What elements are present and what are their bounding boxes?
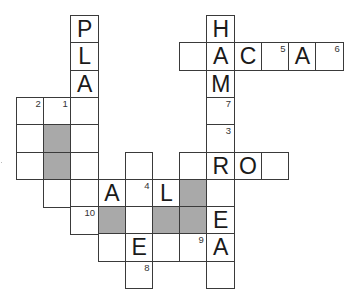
crossword-cell[interactable]: A	[206, 42, 235, 71]
shaded-cell	[43, 124, 72, 153]
cell-letter: L	[71, 44, 98, 69]
crossword-cell[interactable]: 5	[261, 42, 290, 71]
crossword-cell[interactable]: R	[206, 152, 235, 181]
shaded-cell	[179, 179, 208, 208]
crossword-grid: PHLAC5A6AM2173ROA4L10EE9A8	[0, 0, 347, 303]
cell-letter: A	[99, 181, 126, 206]
crossword-cell[interactable]: 7	[206, 97, 235, 126]
crossword-cell[interactable]	[179, 152, 208, 181]
clue-number: 2	[35, 99, 40, 109]
crossword-cell[interactable]: A	[98, 179, 127, 208]
cell-letter: A	[207, 235, 234, 260]
crossword-cell[interactable]: 1	[43, 97, 72, 126]
shaded-cell	[179, 206, 208, 235]
crossword-cell[interactable]	[70, 152, 99, 181]
clue-number: 9	[199, 235, 204, 245]
crossword-cell[interactable]: A	[288, 42, 317, 71]
crossword-cell[interactable]: E	[206, 206, 235, 235]
clue-number: 6	[335, 44, 340, 54]
crossword-cell[interactable]	[261, 152, 290, 181]
crossword-cell[interactable]	[152, 233, 181, 262]
cell-letter: R	[207, 154, 234, 179]
crossword-cell[interactable]: 3	[206, 124, 235, 153]
cell-letter: A	[71, 72, 98, 97]
crossword-cell[interactable]	[179, 42, 208, 71]
crossword-cell[interactable]	[125, 206, 154, 235]
crossword-cell[interactable]	[16, 124, 45, 153]
shaded-cell	[98, 206, 127, 235]
crossword-cell[interactable]: A	[206, 233, 235, 262]
cell-letter: L	[153, 181, 180, 206]
crossword-cell[interactable]: L	[70, 42, 99, 71]
cell-letter: A	[207, 44, 234, 69]
crossword-cell[interactable]: L	[152, 179, 181, 208]
crossword-cell[interactable]: E	[125, 233, 154, 262]
cell-letter: M	[207, 72, 234, 97]
crossword-cell[interactable]: M	[206, 70, 235, 99]
clue-number: 10	[85, 208, 96, 218]
cell-letter: H	[207, 17, 234, 42]
crossword-cell[interactable]: C	[234, 42, 263, 71]
clue-number: 7	[226, 99, 231, 109]
crossword-cell[interactable]	[16, 152, 45, 181]
crossword-cell[interactable]: 6	[315, 42, 344, 71]
crossword-cell[interactable]	[70, 179, 99, 208]
clue-number: 8	[144, 263, 149, 273]
crossword-cell[interactable]: 10	[70, 206, 99, 235]
stray-mark	[1, 162, 2, 163]
cell-letter: O	[235, 154, 262, 179]
clue-number: 1	[63, 99, 68, 109]
crossword-cell[interactable]	[125, 152, 154, 181]
cell-letter: E	[207, 208, 234, 233]
crossword-cell[interactable]: P	[70, 15, 99, 44]
crossword-cell[interactable]: 8	[125, 261, 154, 290]
crossword-cell[interactable]: O	[234, 152, 263, 181]
crossword-cell[interactable]	[43, 179, 72, 208]
crossword-cell[interactable]: 2	[16, 97, 45, 126]
crossword-cell[interactable]	[206, 261, 235, 290]
crossword-cell[interactable]: 4	[125, 179, 154, 208]
crossword-cell[interactable]: A	[70, 70, 99, 99]
crossword-cell[interactable]	[206, 179, 235, 208]
cell-letter: E	[126, 235, 153, 260]
clue-number: 5	[280, 44, 285, 54]
crossword-cell[interactable]	[70, 97, 99, 126]
crossword-cell[interactable]: 9	[179, 233, 208, 262]
crossword-cell[interactable]	[70, 124, 99, 153]
crossword-cell[interactable]: H	[206, 15, 235, 44]
cell-letter: A	[289, 44, 316, 69]
shaded-cell	[152, 206, 181, 235]
crossword-cell[interactable]	[98, 233, 127, 262]
clue-number: 4	[144, 181, 149, 191]
cell-letter: C	[235, 44, 262, 69]
shaded-cell	[43, 152, 72, 181]
cell-letter: P	[71, 17, 98, 42]
clue-number: 3	[226, 126, 231, 136]
